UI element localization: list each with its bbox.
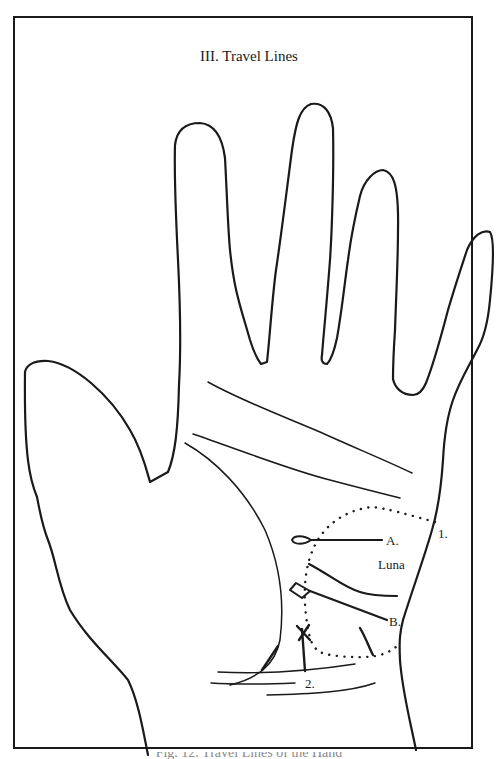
- hand-drawing: [0, 0, 498, 759]
- figure-caption: Fig. 12. Travel Lines of the Hand: [0, 752, 498, 759]
- bracelet-1: [218, 664, 355, 673]
- life-line: [185, 443, 282, 685]
- hand-outline: [25, 104, 493, 755]
- travel-line-slash-right: [360, 628, 373, 655]
- label-a: A.: [386, 534, 399, 547]
- label-b: B.: [389, 615, 401, 628]
- bracelet-2: [211, 683, 295, 684]
- label-luna: Luna: [378, 558, 405, 571]
- label-two: 2.: [305, 677, 315, 690]
- travel-line-b-island: [290, 583, 310, 598]
- bracelet-3: [267, 683, 375, 695]
- travel-line-slash-left: [262, 646, 278, 670]
- travel-line-a-island: [292, 536, 311, 544]
- head-line: [193, 434, 400, 498]
- label-one: 1.: [438, 527, 448, 540]
- heart-line: [208, 382, 412, 473]
